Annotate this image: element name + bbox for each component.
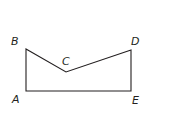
vertex-label-e: E [132,95,139,106]
vertex-label-a: A [12,94,20,105]
vertex-label-c: C [62,56,70,67]
polygon-figure [0,0,173,130]
vertex-label-d: D [131,36,139,47]
pentagon-abcde [26,49,131,91]
diagram-canvas: B C D A E [0,0,173,130]
vertex-label-b: B [11,36,19,47]
